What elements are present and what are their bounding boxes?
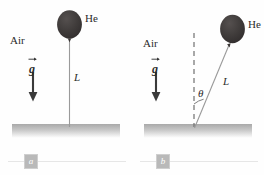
- panel-a-drawing: [0, 0, 132, 175]
- gravity-symbol: g: [29, 62, 35, 76]
- gravity-vector-label: g: [152, 62, 158, 77]
- panel-a-caption: a: [0, 152, 132, 172]
- ground-surface: [12, 124, 120, 138]
- ground-surface: [144, 124, 252, 138]
- helium-balloon: [220, 15, 245, 43]
- string-length-label: L: [74, 72, 80, 83]
- balloon-knot: [68, 38, 71, 42]
- panel-b: Air He L θ g b: [132, 0, 264, 175]
- angle-label-theta: θ: [198, 88, 203, 99]
- gas-label-he: He: [85, 13, 98, 24]
- medium-label-air: Air: [10, 35, 25, 46]
- gravity-symbol: g: [152, 62, 158, 76]
- panel-a: Air He L g a: [0, 0, 132, 175]
- helium-balloon: [57, 10, 82, 38]
- angle-arc: [194, 99, 204, 104]
- gas-label-he: He: [248, 19, 261, 30]
- gravity-arrow-head: [29, 92, 38, 102]
- medium-label-air: Air: [143, 38, 158, 49]
- gravity-vector-label: g: [29, 62, 35, 77]
- panel-label-badge-a: a: [24, 154, 38, 169]
- panel-label-badge-b: b: [156, 154, 170, 169]
- physics-figure: Air He L g a: [0, 0, 264, 175]
- vector-arrow-accent-icon: [28, 56, 37, 61]
- panel-b-caption: b: [132, 152, 264, 172]
- vector-arrow-accent-icon: [151, 56, 160, 61]
- gravity-arrow-head: [152, 92, 161, 102]
- string-length-label: L: [223, 76, 229, 87]
